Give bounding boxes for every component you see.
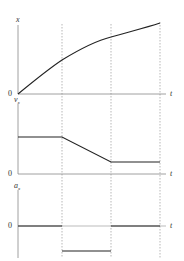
position-origin-label: 0 (8, 89, 12, 98)
velocity-origin-label: 0 (8, 169, 12, 178)
acceleration-origin-label: 0 (8, 221, 12, 230)
position-curve (18, 23, 160, 94)
position-graph: x t 0 (8, 15, 173, 98)
motion-graphs-diagram: x t 0 vx t 0 ax t 0 (0, 0, 184, 261)
acceleration-graph: ax t 0 (8, 181, 173, 258)
velocity-line (18, 137, 160, 162)
velocity-y-label: vx (14, 95, 21, 105)
position-y-label: x (15, 15, 20, 24)
acceleration-t-label: t (170, 221, 173, 230)
time-marker-lines (62, 22, 160, 258)
velocity-graph: vx t 0 (8, 95, 173, 178)
acceleration-y-label: ax (14, 181, 21, 191)
velocity-t-label: t (170, 169, 173, 178)
position-t-label: t (170, 89, 173, 98)
